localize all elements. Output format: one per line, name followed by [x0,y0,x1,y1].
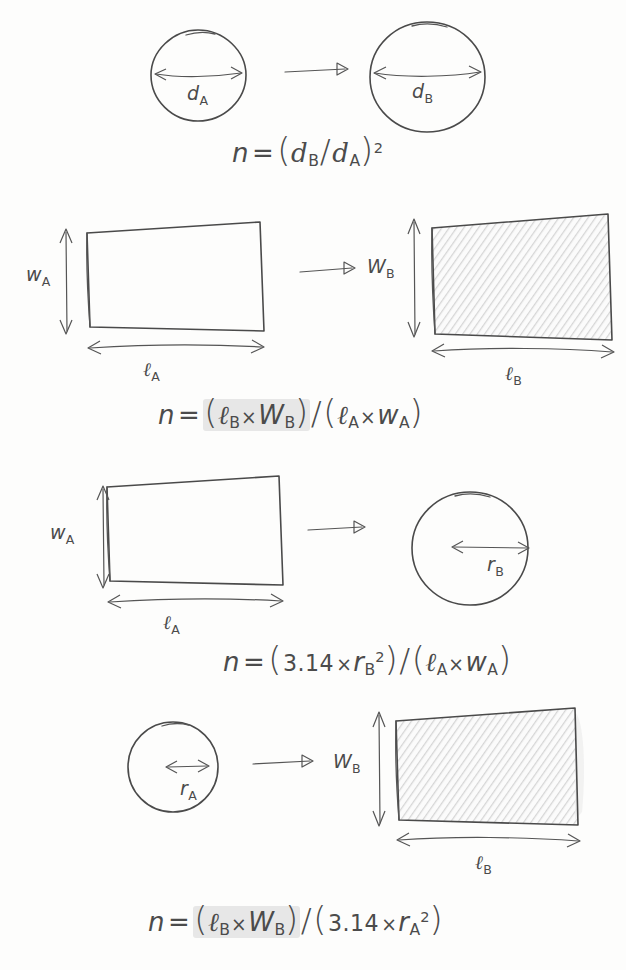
row-4-rect-b [396,708,584,825]
handwritten-diagram-sheet: dA dB n=(dB/dA)2 wA ℓA WB ℓB n=(ℓB×WB)/(… [0,0,626,970]
label-l-b-row4: ℓB [475,851,492,877]
label-l-b-row2: ℓB [505,362,522,388]
formula-row-4: n=(ℓB×WB)/(3.14×rA2) [148,900,443,939]
row-3-rect-a [107,476,283,585]
formula-row-3: n=(3.14×rB2)/(ℓA×wA) [223,640,512,679]
row-2-width-arrow-a [60,229,72,334]
row-2-rect-b [432,214,612,340]
label-r-b: rB [487,553,504,579]
row-4-transform-arrow [253,755,313,767]
label-w-a-row3: wA [50,521,74,547]
label-d-a: dA [187,82,208,108]
label-w-b-row2: WB [367,255,395,281]
label-w-a-row2: wA [26,263,50,289]
formula-row-1: n=(dB/dA)2 [232,131,383,170]
row-2-rect-a [87,222,264,331]
formula-row-4-numerator-highlight: (ℓB×WB) [193,906,300,938]
row-2-width-arrow-b [408,219,420,337]
row-3-transform-arrow [308,521,365,533]
row-3-length-arrow-a [108,594,283,608]
label-l-a-row2: ℓA [143,358,160,384]
label-r-a: rA [180,777,197,803]
formula-row-2-numerator-highlight: (ℓB×WB) [203,399,310,431]
row-4-circle-a [128,722,218,812]
label-d-b: dB [412,80,433,106]
formula-row-2: n=(ℓB×WB)/(ℓA×wA) [158,393,423,432]
row-2-transform-arrow [300,262,355,274]
row-1-transform-arrow [285,63,348,75]
row-4-width-arrow-b [373,712,385,826]
row-2-length-arrow-a [88,340,264,354]
row-2-length-arrow-b [432,344,614,358]
row-3-circle-b [412,492,529,605]
row-1-circle-b [370,22,485,132]
label-w-b-row4: WB [333,750,361,776]
label-l-a-row3: ℓA [163,611,180,637]
row-4-length-arrow-b [397,833,580,847]
